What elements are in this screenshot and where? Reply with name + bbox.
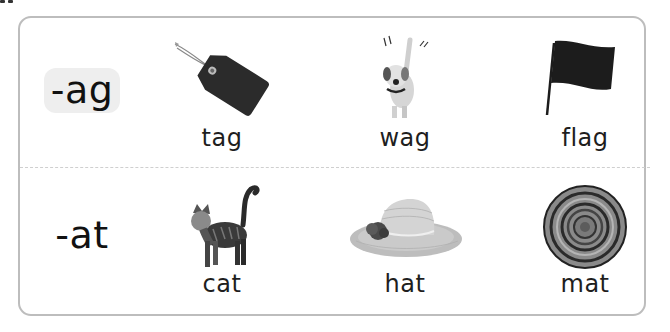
cat-icon <box>147 177 297 277</box>
word-label: wag <box>330 124 480 152</box>
word-label: flag <box>510 124 660 152</box>
word-family-row-at: -at cat <box>20 169 646 317</box>
word-family-row-ag: -ag tag <box>20 18 646 166</box>
word-card-wag: wag <box>330 18 480 166</box>
corner-mark-dot <box>8 0 13 3</box>
word-card-mat: mat <box>510 169 660 317</box>
word-label: hat <box>330 270 480 298</box>
word-label: cat <box>147 270 297 298</box>
tag-icon <box>147 26 297 126</box>
corner-mark-dot <box>0 0 5 3</box>
hat-icon <box>330 177 480 277</box>
dog-wagging-icon <box>330 26 480 126</box>
round-mat-icon <box>510 177 660 277</box>
row-divider <box>20 167 650 168</box>
word-card-cat: cat <box>147 169 297 317</box>
word-label: mat <box>510 270 660 298</box>
family-label-at: -at <box>44 213 120 258</box>
word-card-hat: hat <box>330 169 480 317</box>
family-label-ag: -ag <box>44 68 120 113</box>
word-card-flag: flag <box>510 18 660 166</box>
flag-icon <box>510 26 660 126</box>
word-card-tag: tag <box>147 18 297 166</box>
word-label: tag <box>147 124 297 152</box>
corner-mark <box>0 0 16 4</box>
